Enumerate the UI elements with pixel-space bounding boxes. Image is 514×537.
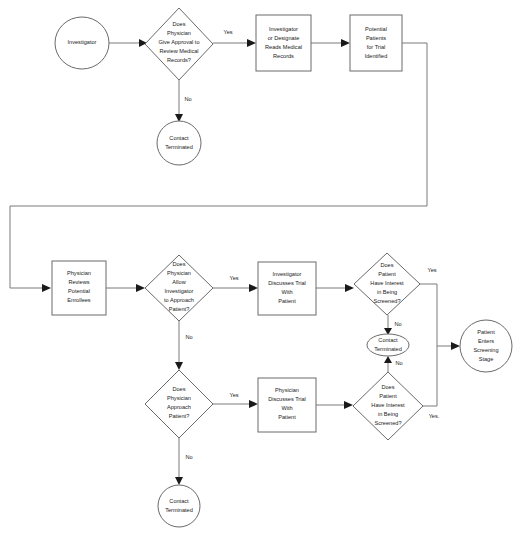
edge-interest-bottom-no: No <box>384 356 403 372</box>
node-approach-line-1: Physician <box>167 395 191 401</box>
node-reviews-line-2: Potential <box>68 288 90 294</box>
flowchart-svg: Yes No <box>0 0 514 537</box>
node-reviews-line-3: Enrollees <box>67 297 91 303</box>
node-potential-line-0: Potential <box>365 26 387 32</box>
nodes-layer: Investigator Does Physician Give Approva… <box>52 8 512 527</box>
node-contact-terminated-1[interactable]: Contact Terminated <box>157 121 201 165</box>
node-allow-line-2: Allow <box>172 279 186 285</box>
edge-approval-no: No <box>175 80 192 122</box>
edge-allow-yes: Yes <box>213 275 258 292</box>
node-approval-line-0: Does <box>172 21 185 27</box>
node-physdisc-line-0: Physician <box>275 387 299 393</box>
edge-reads-to-potential <box>311 39 350 47</box>
node-interestbot-line-1: Patient <box>379 393 397 399</box>
node-ct2-line-1: Terminated <box>165 507 193 513</box>
edge-label-interest-top-no: No <box>394 321 401 327</box>
node-ct1-line-1: Terminated <box>165 144 193 150</box>
edge-reviews-to-allow <box>106 284 145 292</box>
node-interestbot-line-3: in Being <box>378 411 398 417</box>
node-potential-patients-identified[interactable]: Potential Patients for Trial Identified <box>350 15 402 71</box>
edge-approach-no: No <box>175 438 193 485</box>
edge-label-approach-no: No <box>185 454 192 460</box>
node-approach-line-2: Approach <box>167 404 191 410</box>
edge-label-interest-bottom-yes: Yes. <box>429 413 440 419</box>
edge-label-allow-no: No <box>185 334 192 340</box>
edge-approval-yes: Yes <box>213 29 256 47</box>
edge-label-approval-yes: Yes <box>223 29 232 35</box>
node-investigator-discusses-trial[interactable]: Investigator Discusses Trial With Patien… <box>258 262 316 315</box>
node-interesttop-line-3: in Being <box>377 289 397 295</box>
node-decision-allow-approach[interactable]: Does Physician Allow Investigator to App… <box>145 255 213 321</box>
node-interesttop-line-4: Screened? <box>373 298 400 304</box>
node-decision-patient-interest-bottom[interactable]: Does Patient Have Interest in Being Scre… <box>353 372 423 440</box>
node-investigator-line-0: Investigator <box>68 39 97 45</box>
node-allow-line-0: Does <box>172 261 185 267</box>
node-reads-line-3: Records <box>273 53 294 59</box>
edge-label-allow-yes: Yes <box>229 275 238 281</box>
edge-rail-to-screening <box>437 342 460 350</box>
node-reads-line-1: or Designate <box>268 35 300 41</box>
node-physician-reviews-enrollees[interactable]: Physician Reviews Potential Enrollees <box>52 261 106 315</box>
edge-interest-bottom-yes: Yes. <box>423 346 440 419</box>
node-interesttop-line-2: Have Interest <box>370 280 404 286</box>
node-reads-medical-records[interactable]: Investigator or Designate Reads Medical … <box>256 15 311 71</box>
flowchart-canvas: Yes No <box>0 0 514 537</box>
node-reviews-line-0: Physician <box>67 270 91 276</box>
edge-label-approach-yes: Yes <box>229 392 238 398</box>
node-contact-terminated-2[interactable]: Contact Terminated <box>158 485 200 527</box>
node-approval-line-1: Physician <box>167 30 191 36</box>
node-decision-give-approval[interactable]: Does Physician Give Approval to Review M… <box>145 8 213 80</box>
node-allow-line-1: Physician <box>167 270 191 276</box>
node-invdisc-line-2: With <box>281 289 292 295</box>
node-screening-line-3: Stage <box>479 356 494 362</box>
edge-interest-top-yes: Yes <box>420 267 437 346</box>
node-screening-line-2: Screening <box>473 347 498 353</box>
node-contact-terminated-mid[interactable]: Contact Terminated <box>367 334 409 356</box>
node-ct1-line-0: Contact <box>169 135 189 141</box>
edge-approach-yes: Yes <box>213 392 258 408</box>
edge-potential-loop-to-reviews <box>10 43 427 292</box>
node-allow-line-5: Patient? <box>169 306 190 312</box>
edge-label-interest-bottom-no: No <box>395 360 402 366</box>
node-potential-line-2: for Trial <box>367 44 386 50</box>
node-approval-line-2: Give Approval to <box>158 39 199 45</box>
node-decision-physician-approach[interactable]: Does Physician Approach Patient? <box>145 370 213 438</box>
edge-physdiscusses-to-interest-bottom <box>316 401 353 409</box>
node-interesttop-line-0: Does <box>380 262 393 268</box>
node-physdisc-line-3: Patient <box>278 414 296 420</box>
node-interestbot-line-2: Have Interest <box>371 402 405 408</box>
node-interesttop-line-1: Patient <box>378 271 396 277</box>
edge-interest-top-no: No <box>384 315 402 335</box>
node-invdisc-line-0: Investigator <box>273 271 302 277</box>
node-physdisc-line-2: With <box>281 405 292 411</box>
node-potential-line-3: Identified <box>365 53 388 59</box>
node-physdisc-line-1: Discusses Trial <box>268 396 306 402</box>
node-investigator[interactable]: Investigator <box>55 17 109 69</box>
node-interestbot-line-0: Does <box>381 384 394 390</box>
node-ctmid-line-1: Terminated <box>374 346 402 352</box>
node-potential-line-1: Patients <box>366 35 386 41</box>
node-approval-line-3: Review Medical <box>159 48 198 54</box>
node-approach-line-3: Patient? <box>169 413 190 419</box>
edge-label-interest-top-yes: Yes <box>427 267 436 273</box>
node-approval-line-4: Records? <box>167 57 191 63</box>
edge-label-approval-no: No <box>184 96 191 102</box>
node-allow-line-3: Investigator <box>165 288 194 294</box>
node-screening-line-0: Patient <box>477 329 495 335</box>
node-screening-line-1: Enters <box>478 338 494 344</box>
edge-investigator-to-approval <box>109 39 147 47</box>
node-decision-patient-interest-top[interactable]: Does Patient Have Interest in Being Scre… <box>354 253 420 315</box>
node-allow-line-4: to Approach <box>164 297 194 303</box>
node-reads-line-0: Investigator <box>269 26 298 32</box>
edge-discusses-to-interest-top <box>316 284 354 292</box>
node-invdisc-line-3: Patient <box>278 298 296 304</box>
node-ct2-line-0: Contact <box>169 498 189 504</box>
node-patient-enters-screening[interactable]: Patient Enters Screening Stage <box>460 320 512 372</box>
node-interestbot-line-4: Screened? <box>374 420 401 426</box>
node-invdisc-line-1: Discusses Trial <box>268 280 306 286</box>
node-physician-discusses-trial[interactable]: Physician Discusses Trial With Patient <box>258 378 316 432</box>
node-ctmid-line-0: Contact <box>378 337 398 343</box>
edge-allow-no: No <box>175 321 193 370</box>
node-approach-line-0: Does <box>172 386 185 392</box>
node-reads-line-2: Reads Medical <box>265 44 302 50</box>
